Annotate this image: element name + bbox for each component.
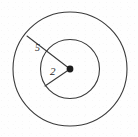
concentric-circles-svg xyxy=(0,0,138,137)
geometry-figure: 5 2 xyxy=(0,0,138,137)
outer-radius-line xyxy=(27,36,70,69)
center-dot xyxy=(67,66,74,73)
outer-radius-label: 5 xyxy=(35,43,40,53)
inner-radius-line xyxy=(45,69,70,86)
inner-radius-label: 2 xyxy=(50,66,56,77)
